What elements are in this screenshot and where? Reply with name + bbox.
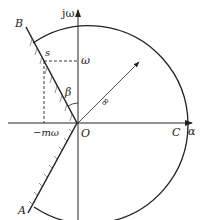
angle-beta-arc xyxy=(68,103,78,106)
hatch-upper xyxy=(30,39,72,121)
label-s: s xyxy=(45,47,50,58)
label-alpha: α xyxy=(188,125,196,138)
label-infinity: ∞ xyxy=(98,95,112,109)
label-jomega: jω xyxy=(60,7,74,20)
s-plane-diagram: jω B s ω β ∞ −mω O C α A xyxy=(0,0,204,220)
radius-arrow xyxy=(78,62,139,123)
boundary-line-upper xyxy=(26,27,77,123)
label-neg-m-omega: −mω xyxy=(33,127,59,138)
label-omega: ω xyxy=(81,54,90,67)
label-O: O xyxy=(81,127,90,140)
label-A: A xyxy=(17,204,26,217)
label-B: B xyxy=(14,17,23,30)
hatch-lower xyxy=(29,129,72,204)
label-beta: β xyxy=(64,86,71,99)
label-C: C xyxy=(172,126,181,139)
